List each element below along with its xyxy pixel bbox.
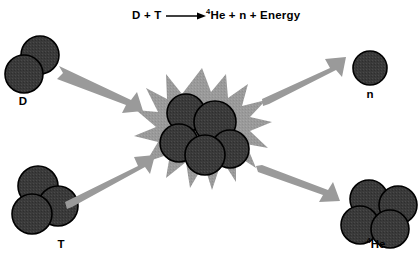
arrow-neutron-out-icon (262, 57, 346, 106)
equation-reactants: D + T (132, 9, 161, 21)
equation-products-text: He + n + Energy (210, 9, 300, 21)
nucleon (5, 55, 43, 93)
neutron-particle (353, 51, 387, 85)
diagram-canvas (0, 0, 420, 264)
arrow-deuterium-in-icon (57, 66, 143, 113)
tritium-nucleus (12, 166, 78, 234)
nucleon (353, 51, 387, 85)
arrow-tritium-in-icon (65, 155, 155, 209)
fusion-reaction-diagram: D + T 4He + n + Energy D T n 4He (0, 0, 420, 264)
equation-arrow-icon (166, 13, 206, 20)
deuterium-nucleus (5, 36, 59, 93)
nucleon (185, 135, 225, 175)
label-tritium: T (44, 238, 78, 250)
label-helium4: 4He (354, 238, 398, 250)
label-deuterium: D (6, 95, 40, 107)
arrow-helium-out-icon (256, 165, 340, 202)
label-helium4-text: He (371, 238, 386, 250)
nucleon (12, 194, 52, 234)
label-neutron: n (353, 88, 387, 100)
equation-products: 4He + n + Energy (206, 9, 300, 21)
